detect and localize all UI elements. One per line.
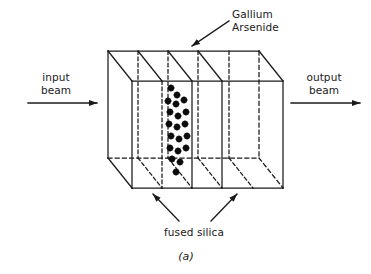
cross-marker-icon: [175, 113, 182, 120]
input-beam-line-2: beam: [29, 84, 83, 97]
gallium-arsenide-line-2: Arsenide: [232, 21, 279, 34]
cross-marker-icon: [176, 136, 183, 143]
label-input-beam: input beam: [29, 71, 83, 97]
slab-trace-gaas-left-hidden: [138, 51, 162, 188]
cross-marker-icon: [168, 133, 175, 140]
slab-boundary-gaas-right: [168, 51, 192, 188]
gallium-arsenide-pointer-arrow: [192, 21, 229, 46]
cross-marker-icon: [174, 124, 181, 131]
cross-marker-icon: [167, 109, 174, 116]
output-beam-line-1: output: [295, 71, 353, 84]
cross-marker-icon: [183, 109, 190, 116]
base-hidden-depth-lines: [138, 158, 253, 188]
box-hidden-edges: [108, 51, 259, 158]
cross-marker-icon: [183, 145, 190, 152]
cross-marker-icon: [167, 145, 174, 152]
slab-trace-three-hidden: [198, 51, 222, 188]
cross-marker-icon: [169, 156, 176, 163]
slab-boundary-gaas-left: [138, 51, 162, 81]
figure-caption: (a): [158, 250, 214, 263]
cross-marker-icon: [166, 121, 173, 128]
gaas-dopant-markers: [165, 85, 191, 176]
cross-marker-icon: [165, 98, 172, 105]
box-depth-edge-hidden: [259, 158, 283, 188]
slab-trace-gaas-right-hidden: [168, 51, 192, 188]
box-back-edges: [108, 51, 259, 158]
fused-silica-left-pointer-arrow: [153, 194, 179, 221]
box-depth-edges: [108, 51, 283, 188]
cross-marker-icon: [177, 159, 184, 166]
cross-marker-icon: [182, 121, 189, 128]
label-fused-silica: fused silica: [139, 226, 249, 239]
cross-marker-icon: [181, 97, 188, 104]
cross-marker-icon: [168, 85, 175, 92]
gallium-arsenide-line-1: Gallium: [232, 8, 279, 21]
cross-marker-icon: [175, 148, 182, 155]
fused-silica-right-pointer-arrow: [211, 194, 237, 221]
box-front-face: [132, 81, 283, 188]
label-gallium-arsenide: Gallium Arsenide: [232, 8, 279, 34]
input-beam-line-1: input: [29, 71, 83, 84]
output-beam-line-2: beam: [295, 84, 353, 97]
cross-marker-icon: [174, 92, 181, 99]
figure-container: Gallium Arsenide input beam output beam …: [0, 0, 371, 274]
cross-marker-icon: [173, 169, 180, 176]
cross-marker-icon: [173, 101, 180, 108]
slab-boundary-three: [198, 51, 222, 188]
cross-marker-icon: [184, 133, 191, 140]
label-output-beam: output beam: [295, 71, 353, 97]
